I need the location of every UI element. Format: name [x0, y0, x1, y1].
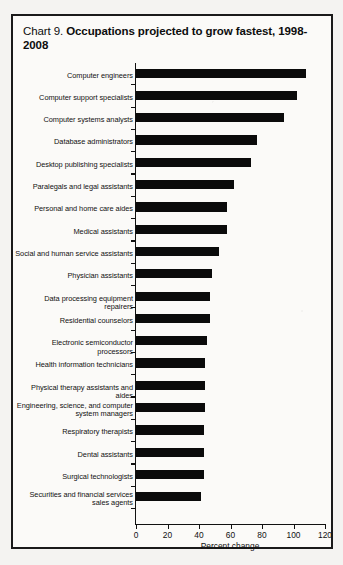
chart-bar — [136, 492, 201, 501]
chart-frame: Chart 9. Occupations projected to grow f… — [11, 14, 333, 549]
x-axis-label: Percent change — [135, 541, 325, 551]
bar-category-label: Computer systems analysts — [15, 116, 133, 125]
chart-bar — [136, 292, 210, 301]
bar-category-label: Engineering, science, and computer syste… — [15, 402, 133, 419]
chart-bar — [136, 69, 306, 78]
chart-bar-row: Electronic semiconductor processors — [13, 331, 335, 353]
chart-bar-row: Physical therapy assistants and aides — [13, 375, 335, 397]
chart-bar-row: Residential counselors — [13, 308, 335, 330]
bar-category-label: Desktop publishing specialists — [15, 161, 133, 170]
chart-bar-row: Securities and financial services sales … — [13, 487, 335, 509]
bar-category-label: Surgical technologists — [15, 473, 133, 482]
chart-bar-row: Computer support specialists — [13, 85, 335, 107]
chart-bar — [136, 113, 284, 122]
chart-bar — [136, 336, 207, 345]
chart-bar — [136, 180, 234, 189]
chart-bar-row: Health information technicians — [13, 353, 335, 375]
x-tick-label: 0 — [121, 530, 151, 540]
x-tick-mark — [262, 524, 263, 529]
x-tick-label: 40 — [184, 530, 214, 540]
chart-bar — [136, 269, 212, 278]
x-tick-mark — [136, 524, 137, 529]
bar-category-label: Health information technicians — [15, 361, 133, 370]
bar-category-label: Securities and financial services sales … — [15, 491, 133, 508]
chart-bar-row: Dental assistants — [13, 442, 335, 464]
bar-category-label: Paralegals and legal assistants — [15, 183, 133, 192]
chart-bar-row: Physician assistants — [13, 264, 335, 286]
chart-bar-row: Personal and home care aides — [13, 197, 335, 219]
chart-bar — [136, 91, 297, 100]
chart-bar-row: Database administrators — [13, 130, 335, 152]
chart-bar-row: Surgical technologists — [13, 464, 335, 486]
chart-bar — [136, 425, 204, 434]
chart-page: Chart 9. Occupations projected to grow f… — [0, 0, 343, 565]
plot-area: Computer engineersComputer support speci… — [13, 60, 335, 551]
chart-title-main: Occupations projected to grow fastest, 1… — [23, 25, 307, 51]
chart-bar — [136, 314, 210, 323]
bar-category-label: Dental assistants — [15, 451, 133, 460]
chart-bar — [136, 158, 251, 167]
x-tick-label: 60 — [216, 530, 246, 540]
chart-title-prefix: Chart 9. — [23, 25, 66, 37]
x-tick-label: 20 — [153, 530, 183, 540]
bar-category-label: Physician assistants — [15, 272, 133, 281]
chart-bar-row: Computer engineers — [13, 63, 335, 85]
x-tick-mark — [231, 524, 232, 529]
x-tick-label: 80 — [247, 530, 277, 540]
bar-category-label: Personal and home care aides — [15, 205, 133, 214]
bar-category-label: Residential counselors — [15, 317, 133, 326]
chart-bar — [136, 202, 227, 211]
bar-category-label: Computer support specialists — [15, 94, 133, 103]
page-title: Chart 9. Occupations projected to grow f… — [23, 25, 323, 52]
x-tick-mark — [325, 524, 326, 529]
chart-bar — [136, 403, 205, 412]
bar-category-label: Computer engineers — [15, 72, 133, 81]
x-tick-label: 100 — [279, 530, 309, 540]
x-tick-mark — [168, 524, 169, 529]
x-tick-mark — [199, 524, 200, 529]
chart-bar — [136, 135, 257, 144]
bar-category-label: Medical assistants — [15, 228, 133, 237]
chart-bar — [136, 225, 227, 234]
x-tick-label: 120 — [310, 530, 340, 540]
bar-category-label: Social and human service assistants — [15, 250, 133, 259]
chart-bar-row: Medical assistants — [13, 219, 335, 241]
bar-category-label: Database administrators — [15, 138, 133, 147]
chart-bar-row: Respiratory therapists — [13, 420, 335, 442]
chart-bar-row: Social and human service assistants — [13, 241, 335, 263]
chart-bar — [136, 247, 219, 256]
chart-bar-row: Desktop publishing specialists — [13, 152, 335, 174]
chart-bar — [136, 470, 204, 479]
category-tick — [131, 508, 136, 509]
bar-category-label: Respiratory therapists — [15, 428, 133, 437]
chart-bar — [136, 448, 204, 457]
chart-bar — [136, 381, 205, 390]
chart-bar-row: Data processing equipment repairers — [13, 286, 335, 308]
chart-bar-row: Engineering, science, and computer syste… — [13, 398, 335, 420]
chart-bar — [136, 358, 205, 367]
x-tick-mark — [294, 524, 295, 529]
chart-bar-row: Computer systems analysts — [13, 108, 335, 130]
chart-bar-row: Paralegals and legal assistants — [13, 175, 335, 197]
